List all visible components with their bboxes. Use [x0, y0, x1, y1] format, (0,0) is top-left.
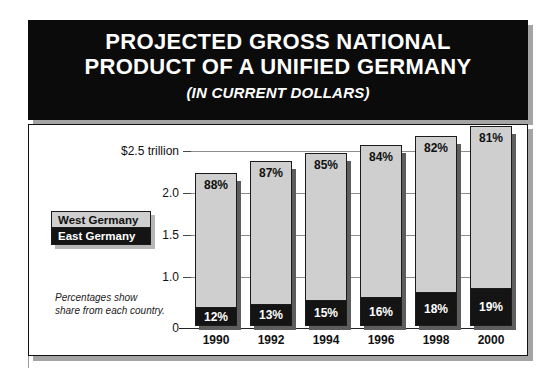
- x-axis-label-1998: 1998: [406, 333, 466, 347]
- bar-label-east-1996: 16%: [361, 305, 401, 319]
- bar-stack-2000: 81% 19%: [470, 126, 512, 326]
- bar-stack-1998: 82% 18%: [415, 136, 457, 326]
- chart-note-line-1: Percentages show: [55, 291, 165, 304]
- bar-label-east-1998: 18%: [416, 302, 456, 316]
- bar-segment-west-2000: 81%: [470, 126, 512, 288]
- bar-segment-west-1992: 87%: [250, 161, 292, 304]
- bar-label-east-1990: 12%: [196, 310, 236, 324]
- bar-label-east-2000: 19%: [471, 300, 511, 314]
- gridline-2-5: [191, 151, 516, 152]
- bar-stack-1996: 84% 16%: [360, 145, 402, 326]
- chart-plot-panel: $2.5 trillion 2.0 1.5 1.0 0 88% 12% 1990: [28, 124, 528, 356]
- bar-label-west-1992: 87%: [251, 166, 291, 180]
- page-subtitle: (IN CURRENT DOLLARS): [28, 83, 528, 103]
- x-axis-label-1994: 1994: [296, 333, 356, 347]
- tick-1-0: [183, 277, 191, 278]
- legend-item-west-germany[interactable]: West Germany: [51, 211, 151, 228]
- bar-segment-east-1998: 18%: [415, 292, 457, 326]
- bar-segment-east-1996: 16%: [360, 297, 402, 326]
- bar-segment-east-1994: 15%: [305, 300, 347, 326]
- tick-1-5: [183, 235, 191, 236]
- bar-label-east-1992: 13%: [251, 308, 291, 322]
- tick-2-0: [183, 193, 191, 194]
- page-title-line-1: PROJECTED GROSS NATIONAL: [28, 29, 528, 54]
- tick-2-5: [183, 151, 191, 152]
- y-axis-label-2-5: $2.5 trillion: [67, 144, 179, 158]
- y-axis-label-0: 0: [67, 321, 179, 335]
- x-axis-label-1992: 1992: [241, 333, 301, 347]
- bar-segment-east-1990: 12%: [195, 307, 237, 326]
- x-axis-label-2000: 2000: [461, 333, 521, 347]
- bar-label-west-1994: 85%: [306, 158, 346, 172]
- x-axis-label-1990: 1990: [186, 333, 246, 347]
- bar-segment-east-1992: 13%: [250, 304, 292, 326]
- bar-stack-1990: 88% 12%: [195, 173, 237, 326]
- bar-label-west-2000: 81%: [471, 131, 511, 145]
- bar-label-west-1998: 82%: [416, 141, 456, 155]
- y-axis-label-2-0: 2.0: [67, 186, 179, 200]
- bar-segment-east-2000: 19%: [470, 288, 512, 326]
- bar-stack-1994: 85% 15%: [305, 153, 347, 326]
- bar-segment-west-1994: 85%: [305, 153, 347, 300]
- chart-legend[interactable]: West Germany East Germany: [51, 211, 151, 245]
- page-title-line-2: PRODUCT OF A UNIFIED GERMANY: [28, 54, 528, 79]
- chart-note: Percentages show share from each country…: [55, 291, 165, 317]
- bar-label-west-1996: 84%: [361, 150, 401, 164]
- bar-segment-west-1990: 88%: [195, 173, 237, 307]
- bar-stack-1992: 87% 13%: [250, 161, 292, 326]
- bar-segment-west-1998: 82%: [415, 136, 457, 292]
- chart-note-line-2: share from each country.: [55, 304, 165, 317]
- bar-segment-west-1996: 84%: [360, 145, 402, 297]
- legend-item-east-germany[interactable]: East Germany: [51, 228, 151, 245]
- chart-figure: Source: The New York Times PROJECTED GRO…: [0, 0, 554, 384]
- chart-title-block: PROJECTED GROSS NATIONAL PRODUCT OF A UN…: [28, 20, 528, 120]
- bar-label-east-1994: 15%: [306, 306, 346, 320]
- bar-label-west-1990: 88%: [196, 178, 236, 192]
- x-axis-label-1996: 1996: [351, 333, 411, 347]
- y-axis-label-1-0: 1.0: [67, 270, 179, 284]
